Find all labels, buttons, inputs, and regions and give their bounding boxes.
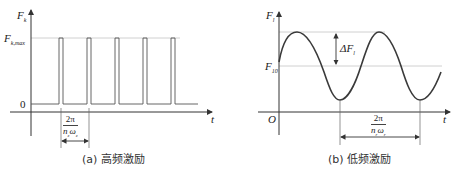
max-force-label: Fk,max bbox=[4, 33, 25, 46]
high-frequency-excitation-diagram: Fk Fk,max 0 t 2π nzωz (a) 高频激励 bbox=[0, 0, 230, 173]
sine-wave-plot bbox=[230, 0, 461, 173]
x-axis-label: t bbox=[443, 114, 446, 125]
zero-label: 0 bbox=[20, 99, 26, 110]
y-axis-label: Fk bbox=[17, 10, 26, 23]
period-label: 2π nrωr bbox=[371, 114, 386, 137]
origin-label: O bbox=[268, 114, 276, 125]
period-label: 2π nzωz bbox=[63, 115, 78, 138]
amplitude-label: ΔFl bbox=[340, 43, 355, 56]
caption-b: (b) 低频激励 bbox=[328, 150, 391, 166]
low-frequency-excitation-diagram: Fl F10 O ΔFl t 2π nrωr (b) 低频激励 bbox=[230, 0, 461, 173]
mean-force-label: F10 bbox=[265, 61, 278, 74]
pulse-train bbox=[31, 38, 198, 104]
x-axis-label: t bbox=[211, 114, 214, 125]
caption-a: (a) 高频激励 bbox=[82, 150, 145, 166]
y-axis-label: Fl bbox=[266, 10, 274, 23]
pulse-train-plot bbox=[0, 0, 230, 173]
